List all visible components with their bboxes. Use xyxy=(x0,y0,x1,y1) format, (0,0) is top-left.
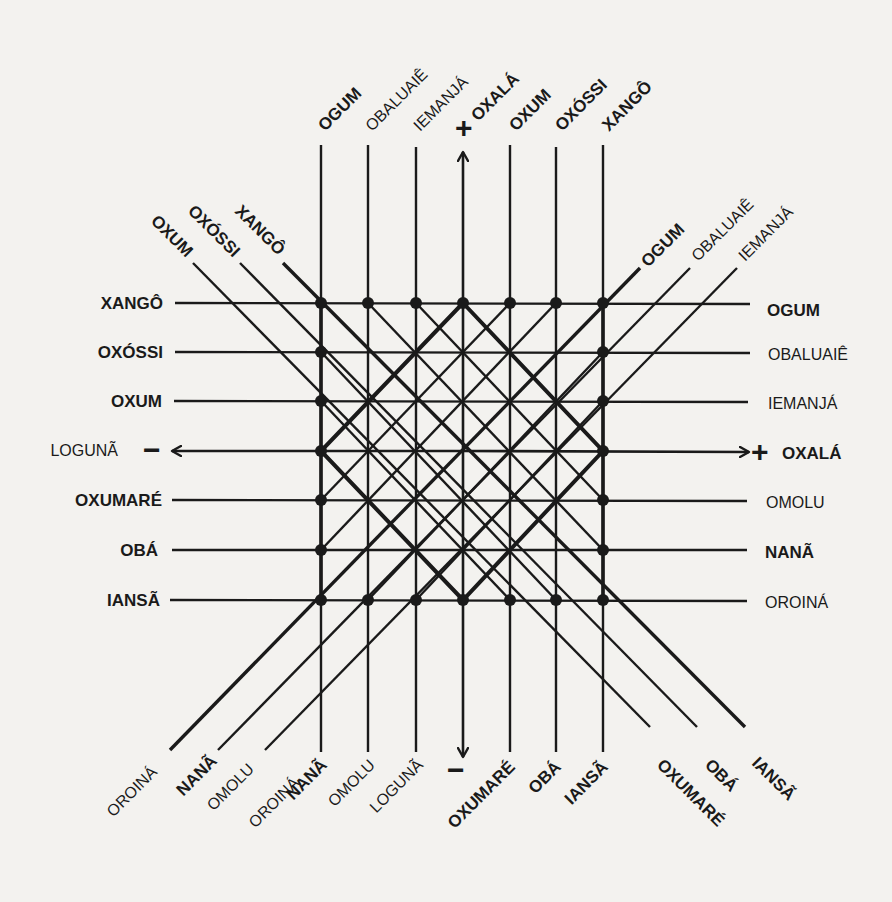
diag-bottom-right-labels: OXUMARÉ OBÁ IANSÃ xyxy=(653,753,800,831)
right-label-ogum: OGUM xyxy=(767,301,820,320)
right-label-oxala: OXALÁ xyxy=(782,444,842,463)
right-plus-sign: + xyxy=(751,435,769,468)
left-label-oxum: OXUM xyxy=(111,392,162,411)
right-labels: OGUM OBALUAIÊ IEMANJÁ OXALÁ OMOLU NANÃ O… xyxy=(765,301,848,611)
diagonals-up-right xyxy=(170,268,737,750)
left-label-oba: OBÁ xyxy=(120,541,158,560)
top-labels: OGUM OBALUAIÊ IEMANJÁ OXALÁ OXUM OXÓSSI … xyxy=(314,65,656,135)
diag-label-oroina-1: OROINÁ xyxy=(103,762,161,820)
left-label-oxossi: OXÓSSI xyxy=(98,343,163,362)
diag-label-ogum: OGUM xyxy=(637,220,688,271)
top-label-ogum: OGUM xyxy=(314,84,365,135)
bottom-label-oba: OBÁ xyxy=(525,757,565,797)
right-label-obaluaie: OBALUAIÊ xyxy=(768,345,848,363)
left-label-oxumare: OXUMARÉ xyxy=(75,491,162,510)
left-label-xango: XANGÔ xyxy=(101,294,163,313)
diag-top-left-labels: OXUM OXÓSSI XANGÔ xyxy=(147,201,288,261)
orixa-cross-diagram: + − − + OGUM OBALUAIÊ IEMANJÁ OXALÁ OXUM… xyxy=(0,0,892,902)
diag-label-oba: OBÁ xyxy=(701,755,741,795)
bottom-label-loguna: LOGUNÃ xyxy=(365,754,426,815)
bottom-label-iansa: IANSÃ xyxy=(560,757,612,809)
diag-top-right-labels: OGUM OBALUAIÊ IEMANJÁ xyxy=(637,195,796,271)
diag-label-iansa: IANSÃ xyxy=(748,753,800,805)
right-label-nana: NANÃ xyxy=(765,542,814,562)
left-label-iansa: IANSÃ xyxy=(107,590,160,610)
diag-bottom-left-labels: OROINÁ NANÃ OMOLU OROINÁ xyxy=(103,751,303,831)
top-plus-sign: + xyxy=(455,111,473,144)
left-label-loguna: LOGUNÃ xyxy=(50,440,118,459)
right-label-iemanja: IEMANJÁ xyxy=(768,394,838,412)
bottom-minus-sign: − xyxy=(447,753,465,786)
left-minus-sign: − xyxy=(143,433,161,466)
right-label-omolu: OMOLU xyxy=(766,494,825,511)
right-label-oroina: OROINÁ xyxy=(765,593,828,611)
horizontal-line-oxumare-omolu xyxy=(172,500,747,501)
